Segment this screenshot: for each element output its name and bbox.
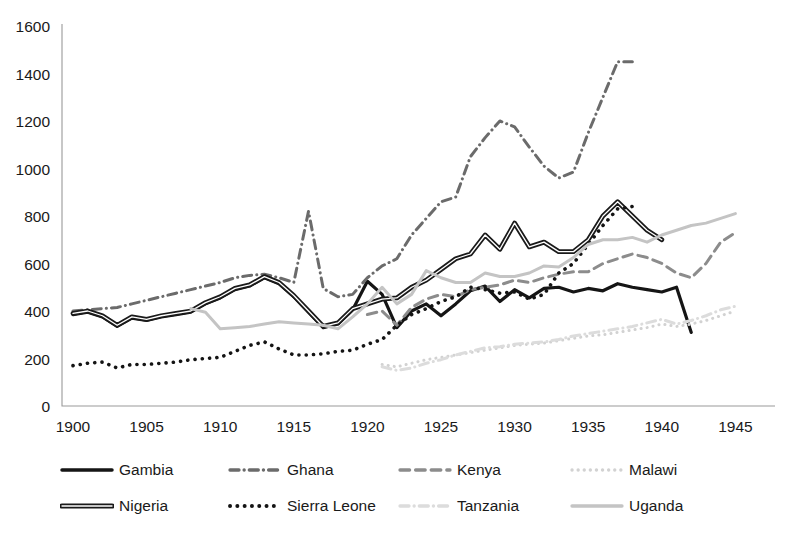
plot-svg: 02004006008001000120014001600 1900190519…	[0, 0, 794, 445]
legend-item-ghana[interactable]: Ghana	[228, 461, 398, 479]
legend-label: Uganda	[629, 497, 683, 515]
series-line-nigeria	[73, 202, 662, 327]
x-tick-label: 1925	[424, 418, 458, 435]
legend-item-gambia[interactable]: Gambia	[60, 461, 228, 479]
legend-item-uganda[interactable]: Uganda	[570, 497, 730, 515]
series-line-tanzania	[382, 306, 735, 370]
legend-label: Malawi	[629, 461, 677, 479]
legend-item-malawi[interactable]: Malawi	[570, 461, 730, 479]
y-tick-label: 200	[24, 351, 50, 368]
data-series-group	[73, 62, 735, 371]
y-tick-label: 1400	[16, 66, 51, 83]
y-tick-label: 400	[24, 303, 50, 320]
series-line-ghana	[73, 62, 632, 311]
legend-item-sierra-leone[interactable]: Sierra Leone	[228, 497, 398, 515]
line-solid-swatch	[60, 462, 114, 478]
x-tick-label: 1905	[129, 418, 163, 435]
y-tick-label: 1000	[16, 161, 51, 178]
x-tick-label: 1910	[203, 418, 238, 435]
y-tick-label: 600	[24, 256, 50, 273]
y-tick-label: 1200	[16, 113, 51, 130]
line-chart: 02004006008001000120014001600 1900190519…	[0, 0, 794, 533]
plot-area: 02004006008001000120014001600 1900190519…	[0, 0, 794, 445]
line-dotted-swatch	[228, 498, 282, 514]
legend-label: Gambia	[119, 461, 173, 479]
y-tick-label: 1600	[16, 18, 51, 35]
legend-label: Ghana	[287, 461, 334, 479]
legend-label: Kenya	[457, 461, 501, 479]
line-double-swatch	[60, 498, 114, 514]
series-line-uganda	[191, 214, 736, 329]
line-dashdot-light-swatch	[398, 498, 452, 514]
line-dashdot-swatch	[228, 462, 282, 478]
x-tick-label: 1900	[56, 418, 91, 435]
legend-label: Tanzania	[457, 497, 519, 515]
legend-label: Nigeria	[119, 497, 168, 515]
y-tick-label: 800	[24, 208, 50, 225]
x-tick-label: 1920	[350, 418, 385, 435]
x-tick-label: 1940	[645, 418, 680, 435]
x-axis-tick-labels: 1900190519101915192019251930193519401945	[56, 418, 753, 435]
x-tick-label: 1915	[277, 418, 311, 435]
series-line-nigeria	[73, 202, 662, 327]
x-tick-label: 1945	[718, 418, 752, 435]
y-tick-label: 0	[41, 398, 50, 415]
chart-legend: GambiaGhanaKenyaMalawiNigeriaSierra Leon…	[60, 452, 760, 528]
legend-label: Sierra Leone	[287, 497, 376, 515]
line-dotted-swatch	[570, 462, 624, 478]
x-tick-label: 1930	[497, 418, 532, 435]
line-dashed-swatch	[398, 462, 452, 478]
legend-item-nigeria[interactable]: Nigeria	[60, 497, 228, 515]
x-tick-label: 1935	[571, 418, 605, 435]
legend-item-tanzania[interactable]: Tanzania	[398, 497, 570, 515]
axis-lines	[62, 24, 775, 406]
y-axis-tick-labels: 02004006008001000120014001600	[16, 18, 51, 415]
legend-item-kenya[interactable]: Kenya	[398, 461, 570, 479]
line-solid-light-swatch	[570, 498, 624, 514]
